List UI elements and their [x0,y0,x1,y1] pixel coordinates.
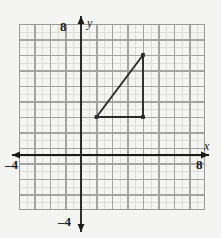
vertex-marker-c [141,53,145,57]
y-axis-name: y [87,17,92,29]
y-axis [78,16,85,232]
y-axis-arrow-negative [78,224,85,232]
x-axis [12,152,209,159]
right-triangle [95,53,145,119]
axes-and-shapes-layer [0,0,221,238]
y-axis-arrow-positive [78,16,85,24]
x-axis-name: x [204,140,209,152]
y-axis-max-label: 8 [60,20,67,33]
x-axis-max-label: 8 [196,158,203,171]
vertex-marker-b [141,115,145,119]
coordinate-graph-figure: 8 –4 –4 8 y x [0,0,221,238]
y-axis-min-label: –4 [58,215,71,228]
vertex-marker-a [95,115,99,119]
x-axis-min-label: –4 [5,158,18,171]
